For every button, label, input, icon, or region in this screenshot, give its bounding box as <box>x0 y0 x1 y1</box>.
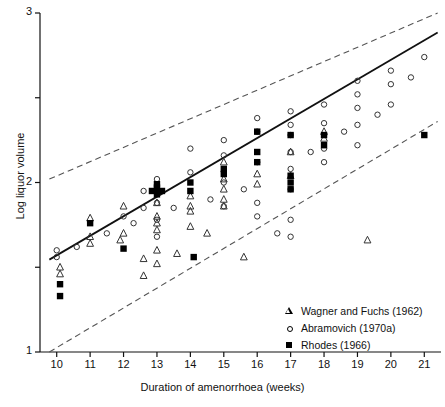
y-tick-label: 3 <box>12 5 32 17</box>
data-point <box>188 146 193 151</box>
data-point <box>255 214 260 219</box>
data-point <box>154 260 161 267</box>
data-point <box>141 188 146 193</box>
data-point <box>355 122 360 127</box>
data-point <box>220 196 227 203</box>
legend-item-abramovich: Abramovich (1970a) <box>283 320 423 335</box>
data-point <box>140 255 147 262</box>
data-point <box>288 217 293 222</box>
data-point <box>287 179 293 185</box>
y-tick-label: 2 <box>12 175 32 187</box>
x-tick-label: 12 <box>111 358 137 370</box>
data-point <box>421 132 427 138</box>
data-point <box>54 248 59 253</box>
data-point <box>120 245 126 251</box>
data-point <box>187 188 193 194</box>
data-point <box>321 120 326 125</box>
legend-label: Abramovich (1970a) <box>301 322 396 334</box>
data-point <box>191 254 197 260</box>
data-point <box>187 179 193 185</box>
legend-label: Wagner and Fuchs (1962) <box>301 305 423 317</box>
x-tick-label: 16 <box>244 358 270 370</box>
x-axis-title: Duration of amenorrhoea (weeks) <box>0 381 445 393</box>
data-point <box>87 214 94 221</box>
data-point <box>388 81 393 86</box>
data-point <box>187 207 194 214</box>
data-point <box>154 234 159 239</box>
data-point <box>220 185 227 192</box>
data-point <box>240 253 247 260</box>
data-point <box>149 188 155 194</box>
data-point <box>255 115 260 120</box>
legend-label: Rhodes (1966) <box>301 339 370 351</box>
triangle-open-icon <box>283 304 297 317</box>
data-point <box>375 112 380 117</box>
data-point <box>221 171 227 177</box>
data-point <box>208 197 213 202</box>
x-tick-label: 14 <box>177 358 203 370</box>
data-point <box>355 105 360 110</box>
data-point <box>254 149 260 155</box>
data-point <box>87 220 93 226</box>
data-point <box>120 230 127 237</box>
x-tick-label: 13 <box>144 358 170 370</box>
legend-item-rhodes: Rhodes (1966) <box>283 337 423 352</box>
data-point <box>57 270 64 277</box>
data-point <box>341 129 346 134</box>
data-point <box>321 159 326 164</box>
trend-line-upper-limit <box>49 13 437 179</box>
data-point <box>57 293 63 299</box>
data-point <box>204 230 211 237</box>
data-point <box>287 173 293 179</box>
data-point <box>188 170 193 175</box>
data-point <box>254 128 260 134</box>
data-point <box>57 281 63 287</box>
data-point <box>141 205 146 210</box>
data-point <box>74 244 79 249</box>
square-filled-icon <box>283 338 297 351</box>
data-point <box>154 226 161 233</box>
y-tick-label: 1 <box>12 344 32 356</box>
data-point <box>308 149 313 154</box>
data-point <box>57 263 64 270</box>
data-point <box>287 132 293 138</box>
data-point <box>287 186 293 192</box>
x-tick-label: 17 <box>278 358 304 370</box>
data-point <box>159 188 165 194</box>
data-point <box>388 102 393 107</box>
data-point <box>364 236 371 243</box>
data-point <box>321 142 327 148</box>
data-point <box>87 240 94 247</box>
data-point <box>187 223 194 230</box>
x-tick-label: 21 <box>411 358 437 370</box>
legend-item-wagner: Wagner and Fuchs (1962) <box>283 303 423 318</box>
data-point <box>254 180 261 187</box>
data-point <box>422 54 427 59</box>
data-point <box>120 202 127 209</box>
data-point <box>288 122 293 127</box>
data-point <box>254 170 261 177</box>
x-tick-label: 11 <box>77 358 103 370</box>
data-point <box>388 68 393 73</box>
data-point <box>131 220 136 225</box>
data-point <box>321 102 326 107</box>
data-point <box>171 205 176 210</box>
series-circle-open <box>54 54 427 259</box>
data-point <box>321 132 327 138</box>
x-tick-label: 20 <box>378 358 404 370</box>
data-point <box>355 143 360 148</box>
data-point <box>275 231 280 236</box>
data-point <box>254 159 260 165</box>
x-tick-label: 19 <box>344 358 370 370</box>
data-point <box>154 181 160 187</box>
series-square-filled <box>57 128 428 299</box>
data-point <box>355 92 360 97</box>
data-point <box>117 236 124 243</box>
data-point <box>288 234 293 239</box>
data-point <box>104 231 109 236</box>
chart-figure: Log liquor volume Duration of amenorrhoe… <box>0 0 445 407</box>
data-point <box>255 200 260 205</box>
x-tick-label: 18 <box>311 358 337 370</box>
x-tick-label: 10 <box>44 358 70 370</box>
data-point <box>154 246 161 253</box>
